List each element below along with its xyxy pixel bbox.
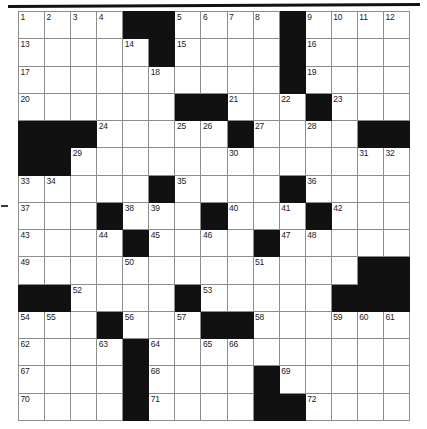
crossword-cell[interactable]	[331, 366, 357, 393]
crossword-cell[interactable]: 34	[45, 175, 71, 202]
crossword-cell[interactable]: 15	[175, 39, 201, 66]
crossword-cell[interactable]: 35	[175, 175, 201, 202]
crossword-cell[interactable]	[227, 230, 253, 257]
crossword-cell[interactable]	[357, 393, 383, 420]
crossword-cell[interactable]	[357, 175, 383, 202]
crossword-cell[interactable]	[253, 202, 279, 229]
crossword-cell[interactable]	[357, 93, 383, 120]
crossword-cell[interactable]	[175, 202, 201, 229]
crossword-cell[interactable]	[279, 257, 305, 284]
crossword-cell[interactable]	[331, 175, 357, 202]
crossword-cell[interactable]: 43	[19, 230, 45, 257]
crossword-cell[interactable]: 4	[97, 12, 123, 39]
crossword-cell[interactable]	[201, 175, 227, 202]
crossword-cell[interactable]	[45, 66, 71, 93]
crossword-cell[interactable]: 7	[227, 12, 253, 39]
crossword-cell[interactable]	[97, 148, 123, 175]
crossword-cell[interactable]: 37	[19, 202, 45, 229]
crossword-cell[interactable]: 42	[331, 202, 357, 229]
crossword-cell[interactable]	[227, 66, 253, 93]
crossword-cell[interactable]: 6	[201, 12, 227, 39]
crossword-cell[interactable]	[227, 366, 253, 393]
crossword-cell[interactable]	[253, 66, 279, 93]
crossword-cell[interactable]	[357, 202, 383, 229]
crossword-cell[interactable]	[253, 339, 279, 366]
crossword-cell[interactable]: 61	[383, 311, 409, 338]
crossword-cell[interactable]	[331, 66, 357, 93]
crossword-cell[interactable]	[201, 366, 227, 393]
crossword-cell[interactable]	[227, 257, 253, 284]
crossword-cell[interactable]: 32	[383, 148, 409, 175]
crossword-cell[interactable]: 18	[149, 66, 175, 93]
crossword-cell[interactable]: 70	[19, 393, 45, 420]
crossword-cell[interactable]	[175, 366, 201, 393]
crossword-cell[interactable]	[383, 66, 409, 93]
crossword-cell[interactable]	[123, 175, 149, 202]
crossword-cell[interactable]: 68	[149, 366, 175, 393]
crossword-cell[interactable]	[97, 366, 123, 393]
crossword-cell[interactable]	[331, 393, 357, 420]
crossword-cell[interactable]	[175, 257, 201, 284]
crossword-cell[interactable]	[71, 175, 97, 202]
crossword-cell[interactable]: 19	[305, 66, 331, 93]
crossword-cell[interactable]	[305, 311, 331, 338]
crossword-cell[interactable]: 46	[201, 230, 227, 257]
crossword-cell[interactable]	[97, 257, 123, 284]
crossword-cell[interactable]: 69	[279, 366, 305, 393]
crossword-cell[interactable]: 66	[227, 339, 253, 366]
crossword-cell[interactable]	[71, 311, 97, 338]
crossword-cell[interactable]: 12	[383, 12, 409, 39]
crossword-cell[interactable]: 50	[123, 257, 149, 284]
crossword-cell[interactable]	[279, 284, 305, 311]
crossword-cell[interactable]: 44	[97, 230, 123, 257]
crossword-cell[interactable]	[45, 202, 71, 229]
crossword-cell[interactable]: 21	[227, 93, 253, 120]
crossword-cell[interactable]: 58	[253, 311, 279, 338]
crossword-cell[interactable]	[149, 284, 175, 311]
crossword-cell[interactable]: 33	[19, 175, 45, 202]
crossword-cell[interactable]	[97, 93, 123, 120]
crossword-cell[interactable]	[383, 202, 409, 229]
crossword-cell[interactable]: 39	[149, 202, 175, 229]
crossword-cell[interactable]	[71, 257, 97, 284]
crossword-cell[interactable]: 30	[227, 148, 253, 175]
crossword-cell[interactable]	[71, 66, 97, 93]
crossword-cell[interactable]	[149, 257, 175, 284]
crossword-cell[interactable]: 59	[331, 311, 357, 338]
crossword-cell[interactable]	[201, 66, 227, 93]
crossword-cell[interactable]	[71, 39, 97, 66]
crossword-cell[interactable]: 51	[253, 257, 279, 284]
crossword-grid[interactable]: 1234567891011121314151617181920212223242…	[18, 11, 410, 421]
crossword-cell[interactable]: 10	[331, 12, 357, 39]
crossword-cell[interactable]: 11	[357, 12, 383, 39]
crossword-cell[interactable]	[357, 339, 383, 366]
crossword-cell[interactable]	[71, 339, 97, 366]
crossword-cell[interactable]: 49	[19, 257, 45, 284]
crossword-cell[interactable]	[71, 366, 97, 393]
crossword-cell[interactable]	[227, 393, 253, 420]
crossword-cell[interactable]	[149, 93, 175, 120]
crossword-cell[interactable]	[71, 230, 97, 257]
crossword-cell[interactable]: 47	[279, 230, 305, 257]
crossword-cell[interactable]	[305, 148, 331, 175]
crossword-cell[interactable]	[383, 366, 409, 393]
crossword-cell[interactable]	[71, 393, 97, 420]
crossword-cell[interactable]	[123, 121, 149, 148]
crossword-cell[interactable]	[45, 393, 71, 420]
crossword-cell[interactable]	[383, 93, 409, 120]
crossword-cell[interactable]	[331, 339, 357, 366]
crossword-cell[interactable]	[97, 39, 123, 66]
crossword-cell[interactable]	[175, 148, 201, 175]
crossword-cell[interactable]: 2	[45, 12, 71, 39]
crossword-cell[interactable]	[331, 148, 357, 175]
crossword-cell[interactable]	[331, 121, 357, 148]
crossword-cell[interactable]	[253, 148, 279, 175]
crossword-cell[interactable]	[383, 39, 409, 66]
crossword-cell[interactable]	[149, 121, 175, 148]
crossword-cell[interactable]	[305, 284, 331, 311]
crossword-cell[interactable]	[357, 66, 383, 93]
crossword-cell[interactable]	[357, 230, 383, 257]
crossword-cell[interactable]: 41	[279, 202, 305, 229]
crossword-cell[interactable]	[305, 366, 331, 393]
crossword-cell[interactable]: 38	[123, 202, 149, 229]
